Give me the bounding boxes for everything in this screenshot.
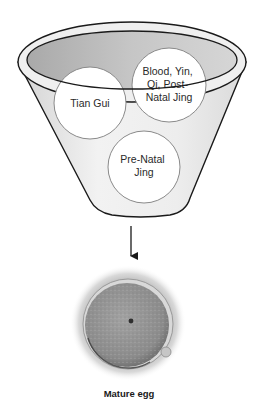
egg-polar-body: [161, 347, 171, 357]
blood-yin-label-line1: Blood, Yin,: [142, 65, 192, 77]
svg-text:Blood, Yin, Qi, Post-: Blood, Yin, Qi, Post- Natal Jing: [142, 65, 195, 103]
circle-pre-natal-jing: Pre-Natal Jing: [108, 131, 180, 203]
pre-natal-label-line2: Jing: [134, 166, 153, 178]
egg-nucleus: [129, 319, 134, 324]
funnel-diagram: Tian Gui Blood, Yin, Qi, Post- Natal Jin…: [0, 0, 262, 405]
pre-natal-label-line1: Pre-Natal: [120, 153, 164, 165]
circle-tian-gui: Tian Gui: [54, 67, 126, 139]
blood-yin-label-line3: Natal Jing: [146, 91, 193, 103]
circle-blood-yin-qi: Blood, Yin, Qi, Post- Natal Jing: [132, 48, 206, 122]
mature-egg-caption: Mature egg: [104, 388, 155, 399]
mature-egg-image: [70, 265, 186, 381]
svg-text:Tian Gui: Tian Gui: [70, 97, 109, 109]
tian-gui-label: Tian Gui: [70, 97, 109, 109]
